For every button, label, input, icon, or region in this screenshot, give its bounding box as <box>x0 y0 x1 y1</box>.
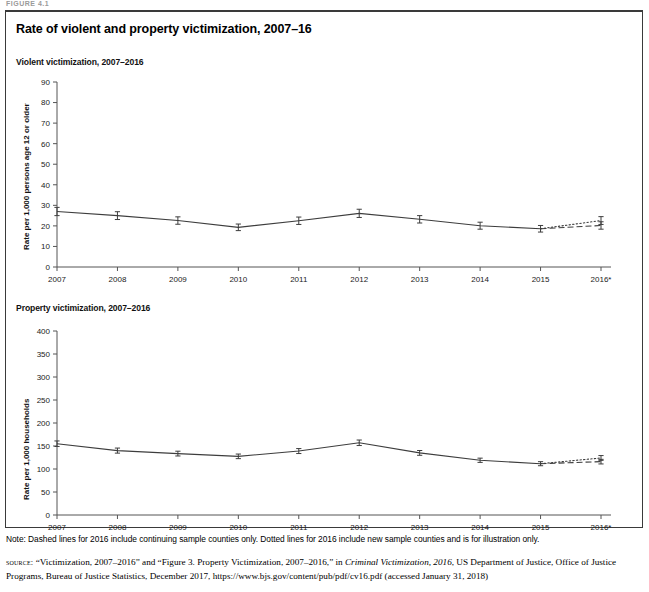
svg-text:2010: 2010 <box>229 523 247 532</box>
svg-text:2014: 2014 <box>471 523 489 532</box>
svg-text:2009: 2009 <box>169 275 187 284</box>
svg-text:2011: 2011 <box>290 523 308 532</box>
svg-text:150: 150 <box>37 442 51 451</box>
svg-text:2008: 2008 <box>109 275 127 284</box>
source-italic-1: Criminal Victimization, 2016 <box>345 557 452 567</box>
svg-text:10: 10 <box>41 242 50 251</box>
svg-text:2016*: 2016* <box>591 275 612 284</box>
svg-text:80: 80 <box>41 98 50 107</box>
panel-title-property: Property victimization, 2007–2016 <box>16 303 150 313</box>
svg-text:350: 350 <box>37 350 51 359</box>
svg-text:60: 60 <box>41 140 50 149</box>
chart-violent-victimization: 0102030405060708090200720082009201020112… <box>0 70 649 290</box>
svg-text:90: 90 <box>41 78 50 87</box>
source-text-1: “Victimization, 2007–2016” and “Figure 3… <box>36 557 345 567</box>
svg-text:100: 100 <box>37 465 51 474</box>
svg-text:2013: 2013 <box>411 523 429 532</box>
svg-text:20: 20 <box>41 222 50 231</box>
page-title: Rate of violent and property victimizati… <box>16 22 312 36</box>
figure-page: FIGURE 4.1 Rate of violent and property … <box>0 0 649 592</box>
svg-text:2007: 2007 <box>48 523 66 532</box>
chart-source: source: “Victimization, 2007–2016” and “… <box>6 556 647 583</box>
svg-text:200: 200 <box>37 419 51 428</box>
chart-note: Note: Dashed lines for 2016 include cont… <box>6 534 646 544</box>
svg-text:2008: 2008 <box>109 523 127 532</box>
svg-text:70: 70 <box>41 119 50 128</box>
svg-text:2013: 2013 <box>411 275 429 284</box>
svg-text:2016*: 2016* <box>591 523 612 532</box>
svg-text:30: 30 <box>41 201 50 210</box>
svg-text:0: 0 <box>46 511 51 520</box>
svg-text:2009: 2009 <box>169 523 187 532</box>
svg-text:400: 400 <box>37 327 51 336</box>
svg-text:2007: 2007 <box>48 275 66 284</box>
svg-text:50: 50 <box>41 160 50 169</box>
svg-text:2014: 2014 <box>471 275 489 284</box>
figure-kicker: FIGURE 4.1 <box>6 0 49 7</box>
svg-text:0: 0 <box>46 263 51 272</box>
svg-text:40: 40 <box>41 181 50 190</box>
svg-text:2010: 2010 <box>229 275 247 284</box>
svg-text:2012: 2012 <box>350 275 368 284</box>
svg-text:300: 300 <box>37 373 51 382</box>
svg-text:2015: 2015 <box>532 523 550 532</box>
panel-title-violent: Violent victimization, 2007–2016 <box>16 57 144 67</box>
svg-text:250: 250 <box>37 396 51 405</box>
chart-property-victimization: 0501001502002503003504002007200820092010… <box>0 320 649 540</box>
svg-text:2012: 2012 <box>350 523 368 532</box>
svg-text:50: 50 <box>41 488 50 497</box>
source-label: source: <box>6 558 33 567</box>
svg-text:2011: 2011 <box>290 275 308 284</box>
svg-text:2015: 2015 <box>532 275 550 284</box>
